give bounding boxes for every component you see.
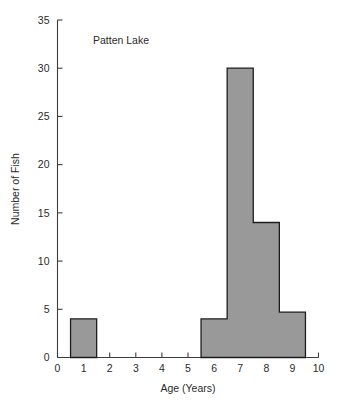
histogram-figure: 05101520253035 012345678910 Patten Lake … [0,0,340,403]
y-axis-title: Number of Fish [9,153,21,225]
x-tick-label-0: 0 [55,362,61,374]
x-tick-label-7: 7 [237,362,243,374]
y-tick-label-15: 15 [38,207,50,219]
y-tick-label-10: 10 [38,255,50,267]
x-tick-label-1: 1 [81,362,87,374]
histogram-bar-group-0 [71,319,97,358]
x-tick-label-6: 6 [211,362,217,374]
y-tick-label-35: 35 [38,14,50,26]
x-tick-label-3: 3 [133,362,139,374]
y-tick-label-30: 30 [38,62,50,74]
x-tick-label-4: 4 [159,362,165,374]
chart-title: Patten Lake [93,34,149,46]
x-axis-title: Age (Years) [160,382,215,394]
x-tick-label-10: 10 [313,362,325,374]
x-tick-label-8: 8 [263,362,269,374]
chart-canvas: 05101520253035 012345678910 Patten Lake … [0,0,340,403]
y-tick-label-0: 0 [44,351,50,363]
x-tick-label-5: 5 [185,362,191,374]
y-tick-label-20: 20 [38,158,50,170]
x-tick-label-9: 9 [289,362,295,374]
x-tick-label-2: 2 [107,362,113,374]
y-tick-label-5: 5 [44,303,50,315]
y-tick-label-25: 25 [38,110,50,122]
